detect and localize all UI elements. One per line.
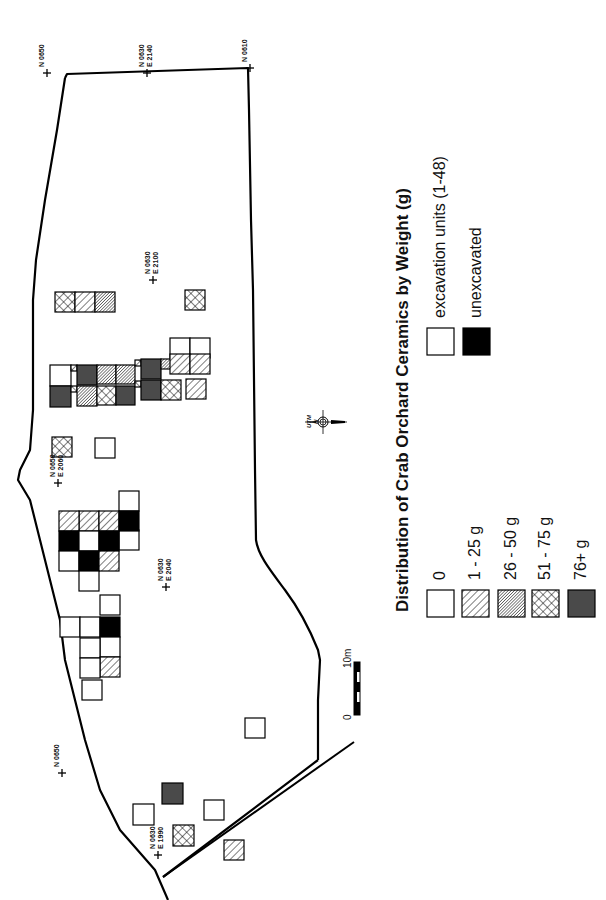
grid-coordinate-text: N 0630 (144, 251, 152, 274)
excavation-unit-w1 (100, 657, 120, 677)
grid-coordinate-label: N 0630E 2140 (138, 44, 154, 67)
grid-coordinate-text: E 2060 (57, 454, 65, 477)
excavation-unit-w26 (95, 292, 115, 312)
legend-swatch-w26 (498, 590, 525, 617)
scale-start-label: 0 (342, 714, 353, 720)
legend-label-unit: excavation units (1-48) (431, 156, 449, 318)
excavation-unit-zero (60, 617, 80, 637)
scale-end-label: 10m (342, 649, 353, 668)
excavation-unit-w51 (185, 290, 205, 310)
excavation-unit-zero (82, 680, 102, 700)
excavation-unit-zero (119, 530, 139, 550)
excavation-unit-zero (79, 531, 99, 551)
excavation-unit-zero (100, 637, 120, 657)
grid-coordinate-text: N 0650 (38, 44, 46, 67)
compass-label: UTM N (306, 415, 320, 428)
excavation-unit-zero (59, 551, 79, 571)
excavation-unit-zero (119, 491, 139, 511)
excavation-unit-unexc (79, 551, 99, 571)
excavation-unit-w76 (50, 386, 71, 407)
excavation-unit-zero (245, 718, 265, 738)
excavation-unit-w51 (71, 365, 77, 371)
excavation-unit-zero (100, 595, 120, 615)
legend-label-w1: 1 - 25 g (466, 526, 484, 580)
grid-coordinate-label: N 0650E 2060 (49, 454, 65, 477)
excavation-unit-zero (79, 571, 99, 591)
excavation-unit-w26 (116, 365, 135, 384)
grid-coordinate-text: N 0630 (149, 826, 157, 849)
excavation-unit-w1 (99, 511, 119, 531)
compass-label-utm: UTM (306, 415, 313, 428)
legend-swatch-w51 (532, 590, 559, 617)
grid-coordinate-label: N 0610 (241, 39, 249, 62)
grid-coordinate-text: E 2100 (152, 251, 160, 274)
excavation-unit-w76 (77, 365, 97, 385)
excavation-unit-w1 (75, 292, 95, 312)
scale-bar (354, 662, 360, 715)
excavation-unit-zero (95, 438, 115, 458)
excavation-unit-w76 (141, 380, 161, 400)
site-map (0, 0, 606, 900)
excavation-unit-w26 (97, 365, 116, 384)
excavation-unit-w26 (77, 386, 97, 406)
legend-label-unexc: unexcavated (467, 227, 485, 318)
road-line (163, 742, 354, 877)
grid-coordinate-label: N 0650 (53, 744, 61, 767)
excavation-unit-w76 (116, 386, 135, 405)
excavation-unit-unexc (59, 531, 79, 551)
legend-swatch-unexc (463, 328, 490, 355)
excavation-unit-unexc (119, 511, 139, 531)
site-boundary (18, 68, 320, 900)
grid-coordinate-label: N 0630E 1990 (149, 826, 165, 849)
excavation-unit-unexc (99, 531, 119, 551)
legend-label-w76: 76+ g (572, 540, 590, 580)
excavation-unit-w1 (79, 511, 99, 531)
excavation-unit-w51 (55, 292, 75, 312)
grid-coordinate-label: N 0650 (38, 44, 46, 67)
legend-swatch-w1 (462, 590, 489, 617)
grid-coordinate-text: E 1990 (157, 826, 165, 849)
excavation-unit-w1 (99, 551, 119, 571)
excavation-unit-zero (80, 658, 100, 678)
excavation-unit-w76 (141, 359, 161, 379)
legend-swatch-zero (427, 590, 454, 617)
grid-coordinate-text: N 0650 (49, 454, 57, 477)
excavation-unit-w51 (173, 825, 194, 846)
excavation-unit-unexc (100, 617, 120, 637)
excavation-unit-w51 (71, 386, 77, 392)
grid-coordinate-label: N 0630E 2040 (157, 558, 173, 581)
grid-markers (43, 64, 254, 859)
excavation-unit-w51 (135, 381, 141, 387)
excavation-unit-w1 (186, 379, 206, 399)
grid-coordinate-text: N 0630 (138, 44, 146, 67)
legend-label-w26: 26 - 50 g (502, 517, 520, 580)
excavation-unit-w51 (135, 360, 141, 366)
excavation-unit-zero (80, 617, 100, 637)
excavation-unit-w76 (162, 783, 183, 804)
excavation-unit-w1 (170, 354, 190, 374)
excavation-unit-w51 (161, 380, 181, 400)
grid-coordinate-text: E 2040 (165, 558, 173, 581)
excavation-unit-w1 (190, 354, 210, 374)
grid-coordinate-text: N 0610 (241, 39, 249, 62)
grid-coordinate-text: N 0630 (157, 558, 165, 581)
excavation-unit-w51 (97, 386, 116, 405)
grid-coordinate-text: N 0650 (53, 744, 61, 767)
legend-swatch-unit (427, 328, 454, 355)
legend-label-w51: 51 - 75 g (536, 517, 554, 580)
legend-swatch-w76 (568, 590, 595, 617)
excavation-unit-w1 (59, 511, 79, 531)
map-title: Distribution of Crab Orchard Ceramics by… (393, 188, 413, 612)
excavation-unit-zero (204, 800, 224, 820)
legend-label-zero: 0 (431, 571, 449, 580)
grid-coordinate-text: E 2140 (146, 44, 154, 67)
excavation-unit-w1 (224, 840, 244, 860)
grid-coordinate-label: N 0630E 2100 (144, 251, 160, 274)
excavation-unit-zero (80, 638, 100, 658)
compass-label-n: N (313, 415, 320, 428)
excavation-unit-zero (133, 804, 154, 825)
excavation-unit-zero (50, 365, 71, 386)
